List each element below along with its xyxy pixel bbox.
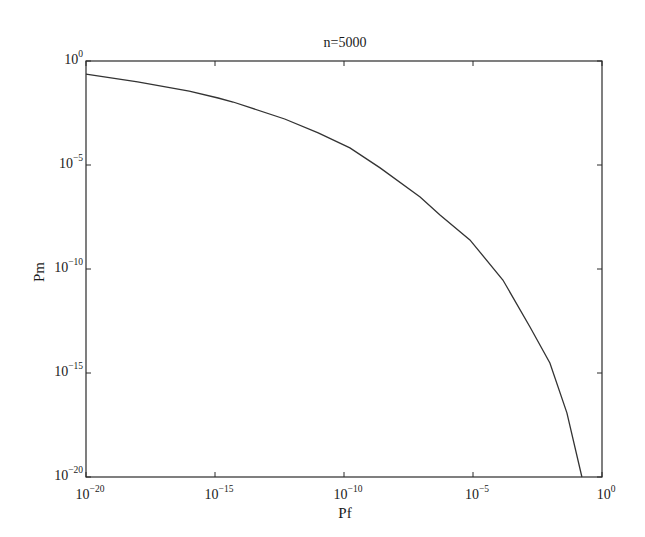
- x-tick-label: 10−15: [205, 484, 234, 502]
- y-tick-label: 100: [64, 49, 83, 67]
- x-tick-label: 10−10: [334, 484, 363, 502]
- x-axis-label: Pf: [338, 505, 351, 521]
- x-tick-label: 10−5: [465, 484, 489, 502]
- y-tick-label: 10−20: [54, 465, 83, 483]
- pm-vs-pf-curve: [86, 74, 582, 477]
- y-tick-label: 10−10: [54, 257, 83, 275]
- x-tick-label: 100: [597, 484, 616, 502]
- y-axis-tick-labels: 10010−510−1010−1510−20: [54, 49, 83, 483]
- axis-ticks: [86, 61, 602, 477]
- y-tick-label: 10−5: [59, 153, 83, 171]
- chart-title: n=5000: [324, 35, 367, 50]
- x-tick-label: 10−20: [76, 484, 105, 502]
- x-axis-tick-labels: 10−2010−1510−1010−5100: [76, 484, 616, 502]
- y-axis-label: Pm: [31, 262, 47, 282]
- plot-area: [86, 61, 602, 477]
- chart: n=5000 10−2010−1510−1010−5100 10010−510−…: [0, 0, 645, 537]
- y-tick-label: 10−15: [54, 361, 83, 379]
